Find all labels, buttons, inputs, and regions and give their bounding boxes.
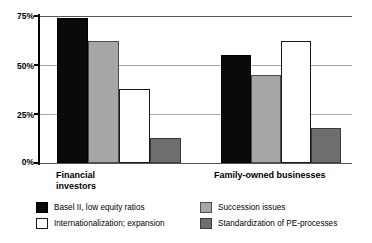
bar-family-owned-internationalization xyxy=(281,41,311,163)
white-swatch-icon xyxy=(36,218,48,229)
category-label-financial-investors: Financial investors xyxy=(56,170,96,192)
bar-family-owned-standardization xyxy=(311,128,341,163)
category-label-family-owned-businesses: Family-owned businesses xyxy=(214,170,326,181)
bar-financial-investors-basel-ii xyxy=(57,18,88,163)
black-swatch-icon xyxy=(36,202,48,213)
y-tick-label-0: 0% xyxy=(0,158,34,166)
y-tick-label-50: 50% xyxy=(0,62,34,70)
legend-label-succession-issues: Succession issues xyxy=(218,203,285,213)
light-gray-swatch-icon xyxy=(200,202,212,213)
legend-item-internationalization: Internationalization; expansion xyxy=(36,218,165,229)
legend-label-internationalization: Internationalization; expansion xyxy=(54,219,165,229)
bar-financial-investors-internationalization xyxy=(119,89,150,163)
bar-financial-investors-standardization xyxy=(150,138,181,163)
bar-chart: 75% 50% 25% 0% Financial investors Famil… xyxy=(0,0,372,243)
bar-financial-investors-succession-issues xyxy=(88,41,119,163)
bar-family-owned-succession-issues xyxy=(251,75,281,163)
y-tick-label-25: 25% xyxy=(0,111,34,119)
chart-legend: Basel II, low equity ratios Internationa… xyxy=(0,200,372,240)
legend-item-standardization: Standardization of PE-processes xyxy=(200,218,337,229)
gridline-0-baseline xyxy=(40,163,352,164)
legend-item-basel-ii: Basel II, low equity ratios xyxy=(36,202,145,213)
legend-item-succession-issues: Succession issues xyxy=(200,202,285,213)
plot-area xyxy=(40,16,352,163)
dark-gray-swatch-icon xyxy=(200,218,212,229)
legend-label-basel-ii: Basel II, low equity ratios xyxy=(54,203,145,213)
bar-family-owned-basel-ii xyxy=(221,55,251,163)
gridline-75 xyxy=(40,16,352,17)
y-tick-label-75: 75% xyxy=(0,12,34,20)
legend-label-standardization: Standardization of PE-processes xyxy=(218,219,337,229)
